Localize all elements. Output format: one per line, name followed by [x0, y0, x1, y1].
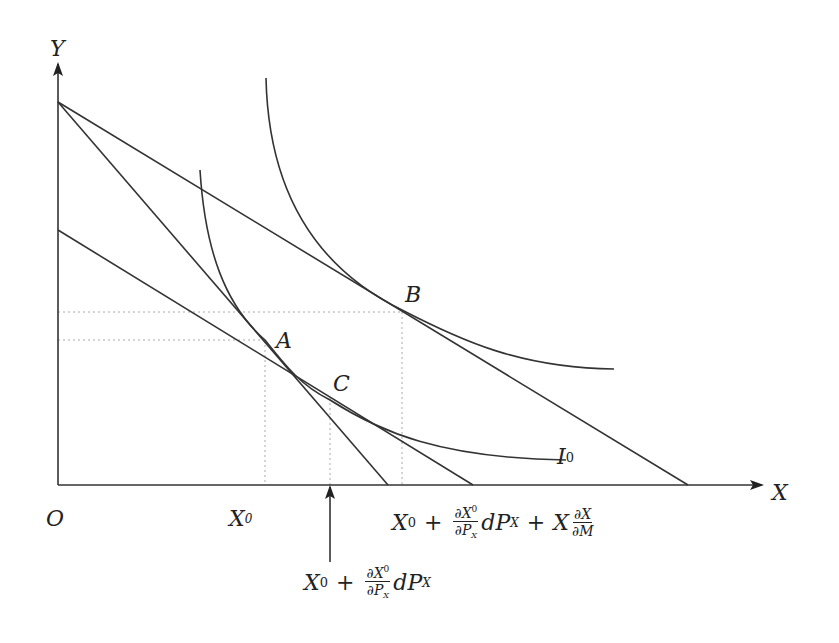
- x-axis-label: X: [772, 482, 788, 504]
- i0-base: I: [557, 446, 566, 468]
- sub-frac-den: ∂P: [367, 582, 384, 598]
- x0-base: X: [229, 508, 245, 530]
- total-x-sup: 0: [408, 516, 416, 529]
- sub-fraction-price: ∂X0 ∂PX: [365, 565, 390, 600]
- total-frac2-num: ∂X: [573, 507, 592, 523]
- indifference-curve-i0: [200, 170, 566, 460]
- budget-line-original: [58, 102, 388, 485]
- diagram-canvas: [0, 0, 839, 643]
- total-term2: X: [553, 512, 569, 534]
- total-x-base: X: [392, 512, 408, 534]
- i0-sup: 0: [566, 451, 574, 464]
- sub-dp: dP: [393, 572, 422, 594]
- total-fraction-income: ∂X ∂M: [572, 507, 594, 538]
- sub-frac-num-sup: 0: [384, 564, 390, 574]
- axes: [58, 64, 762, 485]
- point-c-label: C: [333, 373, 350, 395]
- point-a-label: A: [276, 330, 292, 352]
- sub-frac-num: ∂X: [366, 565, 383, 581]
- total-dp: dP: [481, 512, 510, 534]
- total-frac-den-sub: X: [471, 531, 477, 540]
- sub-x-sup: 0: [320, 576, 328, 589]
- dotted-guides: [58, 312, 402, 485]
- total-dp-sub: X: [510, 517, 519, 529]
- y-axis-label: Y: [50, 38, 65, 60]
- sub-dp-sub: X: [422, 577, 431, 589]
- total-plus-2: +: [527, 512, 545, 534]
- sub-x-base: X: [304, 572, 320, 594]
- sub-plus: +: [336, 572, 354, 594]
- sub-frac-den-sub: X: [383, 591, 389, 600]
- total-fraction-price: ∂X0 ∂PX: [453, 505, 478, 540]
- x0-sub: 0: [245, 513, 253, 525]
- x0-tick-label: X0: [229, 508, 252, 530]
- total-frac2-den: ∂M: [572, 523, 594, 538]
- origin-label: O: [46, 508, 64, 530]
- total-frac-num: ∂X: [454, 505, 471, 521]
- indifference-curve-i1: [266, 78, 614, 369]
- total-plus-1: +: [424, 512, 442, 534]
- indifference-curve-i0-label: I0: [557, 446, 574, 468]
- total-frac-den: ∂P: [455, 522, 472, 538]
- point-b-label: B: [405, 284, 421, 306]
- total-frac-num-sup: 0: [472, 504, 478, 514]
- total-effect-label: X0 + ∂X0 ∂PX dPX + X ∂X ∂M: [392, 505, 596, 540]
- substitution-effect-label: X0 + ∂X0 ∂PX dPX: [304, 565, 431, 600]
